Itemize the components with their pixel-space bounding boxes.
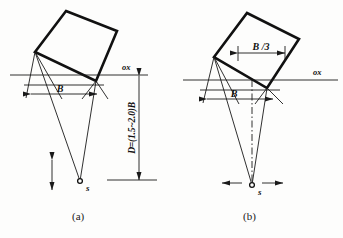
projection-line-a-right [80,81,96,181]
inner-label-b: B /3 [252,41,270,52]
panel-b: ox B /3 B s [183,13,338,197]
figure-canvas: ox B D=(1.5~2.0)B s [0,0,343,238]
projection-line-b-right [252,88,267,185]
technical-figure: ox B D=(1.5~2.0)B s [0,0,343,238]
caption-b: (b) [243,210,256,222]
footprint-rectangle-a [35,11,117,81]
source-point-b [250,183,255,188]
source-point-a [78,179,83,184]
ox-axis-label-b: ox [313,67,322,77]
panel-a: ox B D=(1.5~2.0)B s [10,11,157,193]
caption-a: (a) [72,210,84,222]
source-label-a: s [85,183,90,193]
projection-line-a-outer-right [96,81,108,99]
width-label-a: B [56,83,64,94]
source-label-b: s [257,187,262,197]
width-label-b: B [230,88,238,99]
depth-label-a: D=(1.5~2.0)B [127,102,138,155]
ox-axis-label-a: ox [122,62,131,72]
